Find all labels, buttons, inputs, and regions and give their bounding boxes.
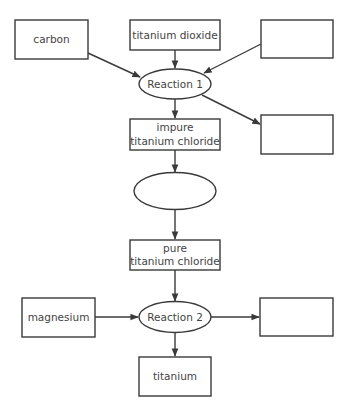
node-label: magnesium — [28, 311, 90, 323]
node-reaction2: Reaction 2 — [139, 302, 211, 333]
node-blank-right-mid[interactable] — [261, 115, 333, 154]
node-label: carbon — [33, 33, 69, 45]
node-label: titanium dioxide — [132, 29, 217, 41]
node-label: Reaction 2 — [147, 311, 203, 323]
node-label-line1: impure — [156, 121, 193, 133]
node-blank-top-right[interactable] — [261, 20, 333, 58]
node-pure-titanium-chloride: pure titanium chloride — [130, 240, 220, 270]
node-carbon: carbon — [15, 20, 88, 59]
node-reaction1: Reaction 1 — [139, 69, 211, 99]
node-magnesium: magnesium — [22, 298, 95, 337]
titanium-extraction-flowchart: carbon titanium dioxide Reaction 1 impur… — [0, 0, 347, 414]
node-blank-ellipse[interactable] — [134, 173, 216, 210]
node-titanium-dioxide: titanium dioxide — [130, 20, 220, 50]
node-blank-bottom-right[interactable] — [260, 298, 333, 336]
node-label-line2: titanium chloride — [130, 255, 220, 267]
node-impure-titanium-chloride: impure titanium chloride — [130, 119, 220, 150]
node-titanium: titanium — [139, 357, 211, 396]
edge-carbon-to-reaction1 — [88, 53, 140, 77]
node-label: Reaction 1 — [147, 78, 203, 90]
node-label: titanium — [153, 370, 197, 382]
node-label-line1: pure — [163, 242, 187, 254]
node-label-line2: titanium chloride — [130, 135, 220, 147]
